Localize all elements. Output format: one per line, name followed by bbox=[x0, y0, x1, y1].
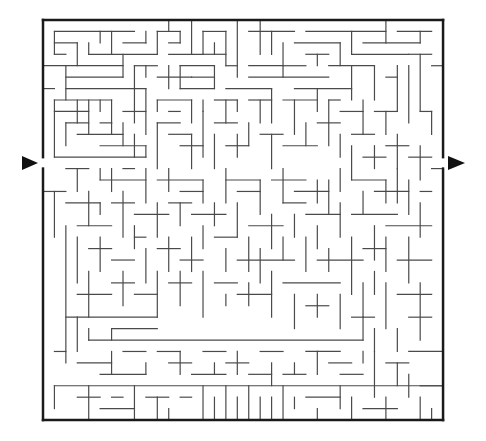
maze-canvas: Maze bbox=[0, 0, 486, 441]
maze-border bbox=[43, 20, 443, 420]
entrance-arrow-icon[interactable] bbox=[22, 156, 38, 170]
maze-walls bbox=[43, 20, 443, 420]
exit-arrow-icon[interactable] bbox=[448, 156, 465, 170]
maze bbox=[0, 0, 486, 441]
